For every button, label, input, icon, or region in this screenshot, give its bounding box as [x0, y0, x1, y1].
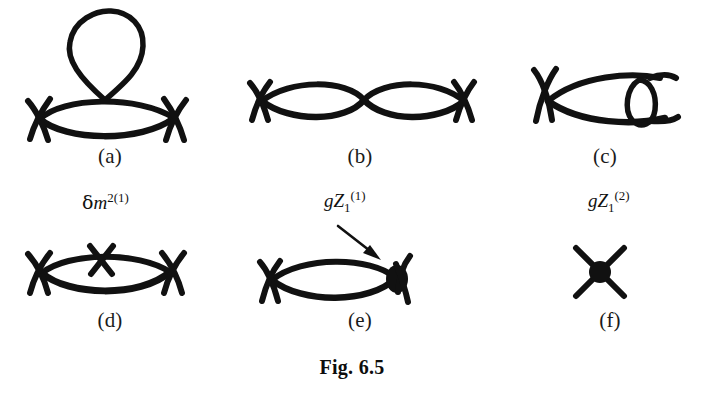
diagram-panel-d: δm2(1) (d)	[10, 186, 210, 346]
diagram-panel-b: (b)	[240, 0, 480, 180]
label-g-z-one-superscript-two: gZ1(2)	[588, 190, 630, 215]
panel-caption-d: (d)	[10, 310, 210, 331]
figure-container: (a) (b)	[0, 0, 704, 404]
diagram-f-graphic	[520, 230, 700, 320]
diagram-d-graphic	[10, 230, 210, 320]
panel-caption-e: (e)	[250, 310, 470, 331]
z-symbol-f: Z	[598, 190, 609, 211]
m-symbol: m	[93, 192, 107, 213]
z-superscript-f: (2)	[615, 188, 630, 203]
bubble-left-upper-arc-b	[262, 84, 364, 101]
bubble-upper-arc-a	[40, 102, 174, 119]
bubble-lower-arc-e	[272, 278, 396, 298]
diagram-b-graphic	[240, 0, 480, 150]
figure-caption: Fig. 6.5	[0, 356, 704, 379]
diagram-c-graphic	[510, 0, 700, 150]
diagram-e-graphic	[250, 212, 470, 322]
bubble-left-lower-arc-b	[262, 100, 364, 117]
panel-caption-c: (c)	[510, 146, 700, 167]
diagram-panel-e: gZ1(1) (e)	[250, 186, 470, 346]
diagram-panel-a: (a)	[10, 0, 210, 180]
label-delta-m-squared: δm2(1)	[82, 192, 129, 212]
g-symbol-e: g	[324, 190, 334, 211]
bubble-lower-arc-d	[42, 272, 170, 291]
g-symbol-f: g	[588, 190, 598, 211]
bubble-right-upper-arc-b	[364, 84, 464, 101]
panel-caption-a: (a)	[10, 146, 210, 167]
z-superscript-e: (1)	[351, 188, 366, 203]
delta-symbol: δ	[82, 191, 93, 213]
external-leg-c-upper-right	[650, 75, 676, 78]
bubble-lower-arc-c	[548, 101, 665, 122]
diagram-a-graphic	[10, 0, 210, 150]
vertex-counterterm-blob-f	[589, 261, 611, 283]
delta-m-superscript: 2(1)	[107, 190, 129, 205]
tadpole-loop	[69, 11, 143, 100]
z-symbol-e: Z	[334, 190, 345, 211]
diagram-panel-c: (c)	[510, 0, 700, 180]
panel-caption-f: (f)	[520, 310, 700, 331]
bubble-right-lower-arc-b	[364, 100, 464, 117]
panel-caption-b: (b)	[240, 146, 480, 167]
bubble-upper-arc-e	[272, 262, 396, 280]
diagram-panel-f: gZ1(2) (f)	[520, 186, 700, 346]
bubble-lower-arc-a	[40, 118, 174, 136]
